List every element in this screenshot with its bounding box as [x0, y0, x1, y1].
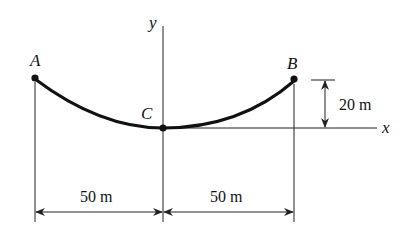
- y-axis-label: y: [147, 13, 157, 32]
- height-dimension-label: 20 m: [339, 96, 372, 113]
- point-a-label: A: [29, 51, 41, 70]
- cable-right-segment: [163, 81, 294, 128]
- point-c-dot: [159, 124, 166, 131]
- point-b-label: B: [287, 54, 298, 73]
- point-c-label: C: [141, 104, 153, 123]
- cable-diagram: A C B y x 20 m 50 m 50 m: [0, 0, 409, 229]
- point-b-dot: [290, 75, 297, 82]
- left-span-label: 50 m: [80, 188, 113, 205]
- x-axis-label: x: [381, 118, 390, 137]
- point-a-dot: [31, 74, 38, 81]
- right-span-label: 50 m: [210, 188, 243, 205]
